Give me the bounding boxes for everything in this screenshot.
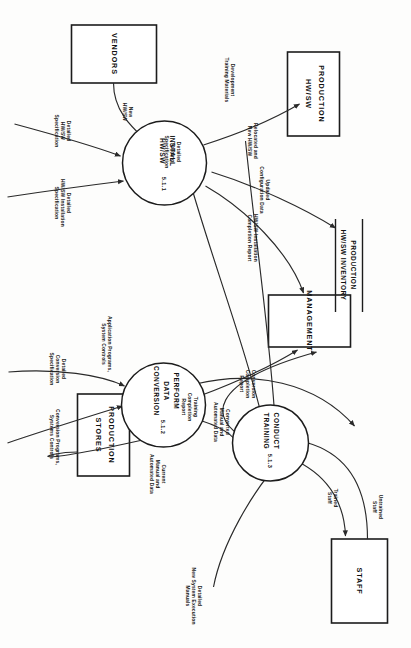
flow-new-hwsw-line1: New — [127, 107, 132, 118]
flow-hwsw-install-report-line2: Completion Report — [246, 214, 251, 261]
flow-label-hwsw-install-report: HW/SW Installation Completion Report — [246, 214, 257, 262]
flow-label-updated-config: Updated Configuration Data — [258, 166, 269, 213]
flow-training-completion-report-line1: Training — [192, 397, 197, 417]
conduct-training-number: 5.1.3 — [266, 454, 272, 468]
flow-updated-config-line1: Updated — [264, 180, 269, 201]
flow-trained-staff-line2: Staff — [326, 492, 331, 504]
flow-trained-staff-arrow — [296, 461, 345, 536]
flow-detailed-training-spec-line1: Detailed — [175, 142, 180, 162]
process-conduct-training[interactable]: CONDUCT TRAINING 5.1.3 — [232, 405, 308, 481]
flow-label-untrained-staff: Untrained Staff — [371, 495, 382, 519]
flow-conversion-completion-report-line1: Conversion — [250, 370, 255, 399]
flow-label-current-manual-automated: Current Manual and Automated Data — [148, 454, 165, 494]
flow-trained-staff-line1: Trained — [332, 489, 337, 508]
external-entity-staff[interactable]: STAFF — [331, 539, 387, 623]
flow-detailed-hwsw-install-spec-line2: HW/SW Installation — [59, 179, 64, 227]
flow-label-application-programs-controls: Application Programs, System Controls — [100, 316, 111, 372]
flow-detailed-hwsw-spec-line2: HW/SW — [59, 122, 64, 140]
flow-hwsw-install-report-line1: HW/SW Installation — [252, 214, 257, 262]
diagram-page: VENDORS PRODUCTION HW/SW MANAGEMENT PROD… — [0, 0, 411, 648]
production-stores-label-line1: PRODUCTION — [106, 406, 115, 463]
flow-label-detailed-hwsw-install-spec: Detailed HW/SW Installation Specificatio… — [53, 179, 70, 227]
dfd-canvas: VENDORS PRODUCTION HW/SW MANAGEMENT PROD… — [0, 0, 411, 648]
perform-data-conversion-number: 5.1.2 — [159, 420, 165, 434]
flow-detailed-exec-manuals-line2: New System Execution — [190, 567, 195, 624]
perform-data-conversion-label-line3: CONVERSION — [152, 366, 159, 416]
staff-label: STAFF — [354, 567, 363, 594]
flow-conversion-programs-controls-line2: Systems Controls — [48, 415, 53, 460]
flow-converted-manual-automated-line1: Converted — [224, 409, 229, 435]
flow-conversion-programs-controls-line1: Conversion Programs, — [54, 409, 59, 466]
flow-current-manual-automated-line3: Automated Data — [148, 454, 153, 494]
vendors-label: VENDORS — [109, 33, 118, 75]
install-hwsw-number: 5.1.1 — [160, 177, 166, 191]
flow-detailed-conversion-spec-arrow — [8, 371, 124, 386]
external-entity-management[interactable]: MANAGEMENT — [268, 290, 350, 351]
flow-updated-config-line2: Configuration Data — [258, 166, 263, 213]
flow-detailed-exec-manuals-line1: Detailed — [196, 586, 201, 606]
datastore-label-line2: HW/SW INVENTORY — [339, 230, 346, 301]
flow-training-completion-report-line3: Report — [180, 399, 185, 416]
flow-label-detailed-hwsw-spec: Detailed HW/SW Specification — [53, 115, 70, 148]
flow-converted-manual-automated-line2: Manual and — [218, 408, 223, 437]
flow-current-manual-automated-line1: Current — [160, 465, 165, 484]
flow-label-conversion-completion-report: Conversion Completion Report — [238, 370, 255, 399]
perform-data-conversion-label-line1: PERFORM — [172, 373, 179, 410]
management-label: MANAGEMENT — [304, 290, 313, 351]
production-hwsw-label-line1: PRODUCTION — [316, 65, 325, 122]
flow-development-training-materials-line2: Training Materials — [223, 58, 228, 103]
production-hwsw-box[interactable] — [287, 52, 339, 136]
flow-conversion-completion-report-line2: Completion — [244, 370, 249, 399]
flow-detailed-hwsw-install-spec-line3: Specification — [53, 187, 58, 220]
flow-relocated-new-hwsw-line2: New HW/SW — [246, 126, 251, 157]
external-entity-vendors[interactable]: VENDORS — [71, 25, 156, 83]
perform-data-conversion-label-line2: DATA — [162, 381, 169, 401]
flow-detailed-conversion-spec-line3: Specification — [48, 353, 53, 386]
flow-detailed-conversion-spec-line1: Detailed — [60, 359, 65, 379]
flow-detailed-hwsw-spec-line1: Detailed — [65, 121, 70, 141]
flow-label-relocated-new-hwsw: Relocated and New HW/SW — [246, 123, 257, 159]
conduct-training-label-line2: TRAINING — [262, 413, 269, 449]
flow-detailed-hwsw-spec-line3: Specification — [53, 115, 58, 148]
flow-detailed-hwsw-install-spec-line1: Detailed — [65, 193, 70, 213]
production-hwsw-label-line2: HW/SW — [303, 79, 312, 109]
conduct-training-label-line1: CONDUCT — [272, 413, 279, 450]
flow-conversion-completion-report-line3: Report — [238, 376, 243, 393]
flow-label-development-training-materials: Development Training Materials — [223, 58, 234, 103]
flow-current-manual-automated-line2: Manual and — [154, 460, 159, 489]
rotated-canvas: VENDORS PRODUCTION HW/SW MANAGEMENT PROD… — [0, 0, 411, 648]
flow-new-hwsw-line2: HW/SW — [121, 103, 126, 121]
external-entity-production-hwsw[interactable]: PRODUCTION HW/SW — [287, 52, 339, 136]
flow-training-completion-report-line2: Completion — [186, 393, 191, 422]
flow-untrained-staff-line1: Untrained — [377, 495, 382, 519]
flow-untrained-staff-line2: Staff — [371, 501, 376, 513]
flow-application-programs-controls-line2: System Controls — [100, 323, 105, 365]
flow-converted-manual-automated-line3: Automated Data — [212, 402, 217, 442]
flow-label-detailed-conversion-spec: Detailed Conversion Specification — [48, 353, 65, 386]
flow-detailed-exec-manuals-line3: Manuals — [184, 586, 189, 607]
datastore-label-line1: PRODUCTION — [349, 240, 356, 289]
flow-label-converted-manual-automated: Converted Manual and Automated Data — [212, 402, 229, 442]
conduct-training-circle[interactable] — [232, 405, 308, 481]
flow-label-detailed-exec-manuals: Detailed New System Execution Manuals — [184, 567, 201, 624]
flow-development-training-materials-line1: Development — [229, 64, 234, 97]
production-stores-label-line2: STORES — [93, 418, 102, 453]
flow-detailed-training-spec-line2: Training — [169, 142, 174, 162]
flow-relocated-new-hwsw-line1: Relocated and — [252, 123, 257, 159]
flow-application-programs-controls-line1: Application Programs, — [106, 316, 111, 372]
flow-detailed-training-spec-line3: Specification — [163, 136, 168, 169]
flow-label-new-hwsw: New HW/SW — [121, 103, 132, 121]
flow-updated-config-arrow — [211, 172, 335, 228]
flow-detailed-conversion-spec-line2: Conversion — [54, 355, 59, 384]
